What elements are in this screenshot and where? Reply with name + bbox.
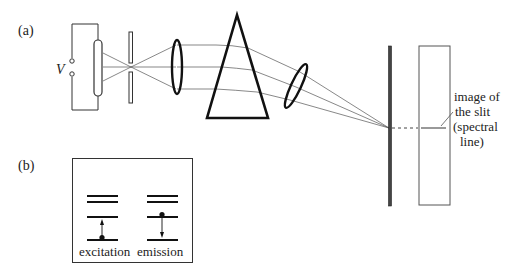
annotation-line-1: image of	[454, 89, 501, 104]
excitation-label: excitation	[79, 244, 131, 259]
terminal-bottom	[70, 72, 74, 76]
ray	[103, 53, 131, 67]
annotation-line-4: line)	[460, 134, 484, 149]
annotation-line-2: the slit	[455, 104, 490, 119]
panel-a-label: (a)	[18, 23, 34, 39]
spectral-line-annotation: image of the slit (spectral line)	[453, 89, 501, 149]
ray	[296, 87, 389, 128]
spectroscope-diagram: (a) V	[0, 0, 520, 272]
ray	[131, 67, 176, 89]
screen	[389, 46, 392, 206]
slit-jaw-bottom	[129, 72, 133, 103]
emission-label: emission	[137, 244, 184, 259]
panel-b-label: (b)	[18, 158, 35, 174]
annotation-leader	[441, 112, 453, 126]
arrowhead-down-icon	[160, 232, 164, 238]
photographic-plate	[419, 46, 450, 205]
annotation-line-3: (spectral	[453, 119, 498, 134]
slit-jaw-top	[129, 32, 133, 63]
emission-diagram	[147, 196, 178, 240]
electron-dot	[99, 235, 104, 240]
electron-dot	[159, 212, 164, 217]
light-rays	[103, 45, 389, 128]
discharge-lamp	[94, 40, 102, 96]
ray	[131, 45, 176, 67]
ray	[177, 67, 252, 70]
ray	[248, 48, 300, 72]
ray	[300, 72, 389, 128]
ray	[103, 67, 131, 81]
ray	[290, 100, 389, 128]
arrowhead-up-icon	[100, 219, 104, 225]
voltage-label: V	[56, 62, 66, 77]
ray	[177, 89, 257, 92]
excitation-diagram	[87, 196, 118, 240]
terminal-top	[70, 59, 74, 63]
prism	[207, 15, 268, 118]
ray	[177, 45, 248, 48]
focusing-lens	[281, 62, 310, 110]
